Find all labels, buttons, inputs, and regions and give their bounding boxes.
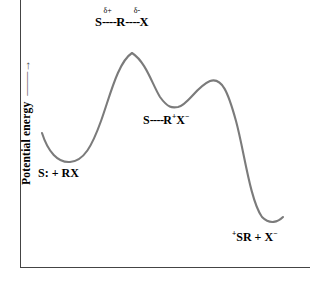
intermediate-cation: R	[163, 113, 172, 127]
transition-state-formula: S----R----X	[95, 16, 149, 29]
intermediate-anion-charge: −	[185, 112, 189, 121]
delta-plus-label: δ+	[103, 6, 111, 15]
reaction-energy-diagram: Potential energy ——→ δ+δ- S----R----X S-…	[0, 0, 310, 285]
products-label: +SR + X−	[232, 230, 277, 245]
ts-bond-left: ----	[102, 15, 116, 29]
intermediate-bond: ----	[150, 113, 164, 127]
products-body: SR + X	[236, 230, 273, 244]
transition-state-label: δ+δ- S----R----X	[95, 7, 149, 30]
ts-bond-right: ----	[125, 15, 139, 29]
ts-center-atom: R	[116, 15, 125, 29]
intermediate-label: S----R+X−	[143, 113, 189, 128]
reactants-label: S: + RX	[38, 166, 79, 181]
intermediate-anion: X	[176, 113, 185, 127]
delta-minus-label: δ-	[134, 6, 140, 15]
ts-nucleophile: S	[95, 15, 102, 29]
ts-leaving-group: X	[140, 15, 149, 29]
products-anion-charge: −	[273, 229, 277, 238]
intermediate-nucleophile: S	[143, 113, 150, 127]
transition-state-partial-charges: δ+δ-	[95, 7, 149, 15]
